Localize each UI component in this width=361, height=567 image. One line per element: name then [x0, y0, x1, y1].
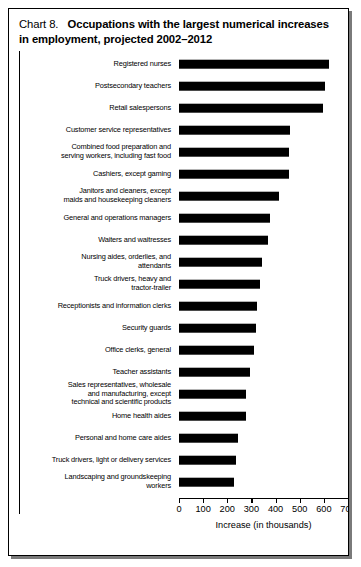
bar-category-label: Office clerks, general	[105, 346, 171, 355]
bar	[179, 236, 268, 245]
bar-row: Combined food preparation and serving wo…	[9, 143, 349, 162]
bar	[179, 390, 246, 399]
bar-row: Office clerks, general	[9, 341, 349, 360]
bar-row: Sales representatives, wholesale and man…	[9, 385, 349, 404]
bar-row: Personal and home care aides	[9, 429, 349, 448]
x-axis-tick-label: 400	[268, 504, 283, 514]
x-axis-tick	[227, 499, 228, 503]
x-axis-tick-label: 500	[292, 504, 307, 514]
bar-category-label: Waiters and waitresses	[98, 236, 171, 245]
x-axis-tick-label: 700	[340, 504, 349, 514]
bar-category-label: Personal and home care aides	[75, 434, 171, 443]
bar	[179, 104, 323, 113]
bar	[179, 412, 246, 421]
bar	[179, 82, 325, 91]
bar-category-label: Home health aides	[112, 412, 171, 421]
x-axis-tick-label: 100	[195, 504, 210, 514]
bar-row: Postsecondary teachers	[9, 77, 349, 96]
bar-row: Truck drivers, heavy and tractor-trailer	[9, 275, 349, 294]
bar	[179, 214, 270, 223]
x-axis-tick-label: 600	[316, 504, 331, 514]
bar-row: Truck drivers, light or delivery service…	[9, 451, 349, 470]
bar-row: Security guards	[9, 319, 349, 338]
bar-category-label: Nursing aides, orderlies, and attendants	[81, 254, 171, 271]
bar	[179, 434, 238, 443]
bar-category-label: Landscaping and groundskeeping workers	[65, 474, 171, 491]
bar	[179, 170, 289, 179]
x-axis-tick-label: 300	[244, 504, 259, 514]
bar-category-label: Truck drivers, heavy and tractor-trailer	[94, 276, 171, 293]
x-axis-tick	[203, 499, 204, 503]
bar-category-label: Retail salespersons	[109, 104, 171, 113]
bar	[179, 346, 254, 355]
bar-category-label: General and operations managers	[63, 214, 171, 223]
bar-category-label: Security guards	[122, 324, 171, 333]
bar-category-label: Customer service representatives	[66, 126, 171, 135]
bar-row: Receptionists and information clerks	[9, 297, 349, 316]
bar-row: Nursing aides, orderlies, and attendants	[9, 253, 349, 272]
bar	[179, 302, 257, 311]
bar	[179, 148, 289, 157]
x-axis-tick	[324, 499, 325, 503]
bar-category-label: Combined food preparation and serving wo…	[61, 144, 171, 161]
bar	[179, 60, 329, 69]
chart-card: Chart 8. Occupations with the largest nu…	[8, 8, 349, 556]
x-axis-tick-label: 200	[220, 504, 235, 514]
bar-row: Landscaping and groundskeeping workers	[9, 473, 349, 492]
bar-row: Janitors and cleaners, except maids and …	[9, 187, 349, 206]
x-axis: 0100200300400500600700	[9, 498, 349, 518]
bar	[179, 192, 279, 201]
bar-row: Home health aides	[9, 407, 349, 426]
x-axis-line	[179, 498, 348, 499]
x-axis-tick	[348, 499, 349, 503]
bar-row: Registered nurses	[9, 55, 349, 74]
x-axis-tick	[300, 499, 301, 503]
x-axis-label: Increase (in thousands)	[164, 520, 350, 530]
bar-row: Waiters and waitresses	[9, 231, 349, 250]
x-axis-tick	[276, 499, 277, 503]
bar-row: General and operations managers	[9, 209, 349, 228]
bar-row: Cashiers, except gaming	[9, 165, 349, 184]
bar-category-label: Teacher assistants	[112, 368, 171, 377]
bar-category-label: Truck drivers, light or delivery service…	[52, 456, 171, 465]
plot-area: Registered nursesPostsecondary teachersR…	[9, 51, 349, 556]
bar	[179, 324, 256, 333]
bar-category-label: Cashiers, except gaming	[93, 170, 171, 179]
bar-category-label: Janitors and cleaners, except maids and …	[63, 188, 171, 205]
bar-category-label: Registered nurses	[114, 60, 171, 69]
bar-row: Retail salespersons	[9, 99, 349, 118]
bar	[179, 368, 250, 377]
bar	[179, 258, 262, 267]
chart-title: Chart 8. Occupations with the largest nu…	[19, 17, 339, 46]
x-axis-tick	[179, 499, 180, 503]
bar-category-label: Receptionists and information clerks	[58, 302, 171, 311]
bar	[179, 456, 236, 465]
x-axis-tick-label: 0	[176, 504, 181, 514]
bar-category-label: Postsecondary teachers	[95, 82, 171, 91]
bar-row: Teacher assistants	[9, 363, 349, 382]
bar-category-label: Sales representatives, wholesale and man…	[68, 381, 171, 407]
bar-row: Customer service representatives	[9, 121, 349, 140]
bar	[179, 280, 260, 289]
x-axis-tick	[251, 499, 252, 503]
bar	[179, 478, 234, 487]
chart-number: Chart 8.	[19, 18, 58, 30]
bar	[179, 126, 290, 135]
